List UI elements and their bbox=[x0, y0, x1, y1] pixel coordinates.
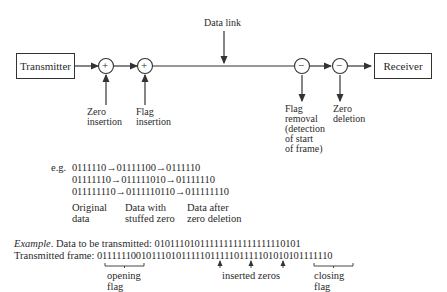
zero-deletion-node-symbol: − bbox=[336, 60, 342, 70]
eg-prefix: e.g. bbox=[51, 162, 66, 173]
col-label-after-line1: Data after bbox=[187, 202, 229, 213]
example-row-3: 011111110→0111110110→011111110 bbox=[72, 186, 229, 197]
flag-insertion-node-symbol: + bbox=[141, 60, 147, 70]
example-data-line: Example. Data to be transmitted: 0101110… bbox=[14, 238, 301, 249]
zero-insertion-label-line2: insertion bbox=[87, 117, 122, 127]
opening-flag-label-line1: opening bbox=[107, 270, 141, 281]
opening-flag-label-line2: flag bbox=[107, 281, 123, 292]
zero-insertion-node-symbol: + bbox=[102, 60, 108, 70]
example-row-1: 0111110→01111100→0111110 bbox=[72, 162, 200, 173]
flag-insertion-label-line2: insertion bbox=[136, 117, 171, 127]
col-label-original-line1: Original bbox=[72, 202, 107, 213]
receiver-label: Receiver bbox=[383, 60, 422, 72]
transmitter-label: Transmitter bbox=[20, 60, 71, 72]
flag-removal-node-symbol: − bbox=[298, 60, 304, 70]
closing-flag-label-line2: flag bbox=[314, 281, 330, 292]
data-link-label: Data link bbox=[204, 18, 241, 28]
closing-flag-label-line1: closing bbox=[314, 270, 344, 281]
col-label-original-line2: data bbox=[72, 213, 90, 224]
example-word: Example bbox=[14, 238, 51, 249]
zero-deletion-label-line2: deletion bbox=[333, 114, 365, 124]
transmitted-frame-line: Transmitted frame: 011111100101110101111… bbox=[14, 250, 332, 261]
transmitter-box: Transmitter bbox=[16, 53, 75, 79]
receiver-box: Receiver bbox=[374, 53, 432, 79]
col-label-stuffed-line2: stuffed zero bbox=[125, 213, 175, 224]
data-line-label: . Data to be transmitted: bbox=[51, 238, 155, 249]
col-label-after-line2: zero deletion bbox=[187, 213, 242, 224]
data-bits: 010111010111111111111111110101 bbox=[155, 238, 301, 249]
inserted-zeros-label: inserted zeros bbox=[222, 270, 280, 281]
col-label-stuffed-line1: Data with bbox=[125, 202, 166, 213]
frame-bits: 0111111001011101011111011111011111010101… bbox=[97, 250, 332, 261]
flag-removal-label-line5: of frame) bbox=[285, 144, 322, 154]
frame-label: Transmitted frame: bbox=[14, 250, 97, 261]
example-row-2: 01111110→011111010→01111110 bbox=[72, 174, 215, 185]
